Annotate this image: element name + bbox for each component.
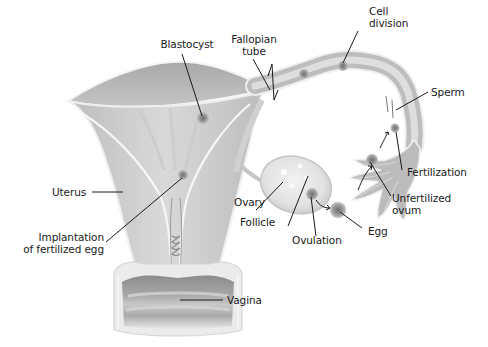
label-implantation-line2: of fertilized egg (8, 243, 104, 255)
label-egg: Egg (368, 225, 388, 237)
label-ovary-text: Ovary (234, 196, 265, 208)
label-cell-division: Cell division (369, 5, 408, 29)
fertilized-egg (391, 124, 400, 133)
reproductive-anatomy-diagram: Blastocyst Fallopian tube Cell division … (0, 0, 488, 347)
label-cell-division-line1: Cell (369, 5, 408, 17)
label-ovary: Ovary (234, 196, 265, 208)
label-implantation-line1: Implantation (8, 231, 104, 243)
dividing-cell-1 (299, 69, 309, 79)
label-blastocyst: Blastocyst (155, 38, 219, 50)
label-follicle-text: Follicle (240, 216, 275, 228)
unfertilized-ovum (366, 154, 378, 166)
vagina (114, 262, 242, 336)
label-follicle: Follicle (240, 216, 275, 228)
label-fallopian-tube: Fallopian tube (223, 33, 285, 57)
label-uterus-text: Uterus (52, 186, 86, 198)
label-sperm-text: Sperm (431, 86, 465, 98)
label-unfertilized-ovum: Unfertilized ovum (392, 192, 451, 216)
label-unfertilized-ovum-line1: Unfertilized (392, 192, 451, 204)
label-egg-text: Egg (368, 225, 388, 237)
label-sperm: Sperm (431, 86, 465, 98)
label-uterus: Uterus (52, 186, 86, 198)
label-blastocyst-text: Blastocyst (155, 38, 219, 50)
label-fallopian-tube-line1: Fallopian (223, 33, 285, 45)
egg (330, 202, 346, 218)
fallopian-tube (255, 60, 415, 146)
implanted-egg (178, 170, 188, 180)
label-vagina-text: Vagina (227, 294, 262, 306)
label-ovulation: Ovulation (292, 234, 342, 246)
label-fallopian-tube-line2: tube (223, 45, 285, 57)
label-cell-division-line2: division (369, 17, 408, 29)
sperm-cells (386, 96, 393, 118)
ovary (253, 147, 339, 223)
blastocyst (197, 112, 209, 124)
follicle (306, 188, 318, 200)
label-fertilization-text: Fertilization (407, 166, 467, 178)
label-fertilization: Fertilization (407, 166, 467, 178)
label-ovulation-text: Ovulation (292, 234, 342, 246)
label-implantation: Implantation of fertilized egg (8, 231, 104, 255)
label-vagina: Vagina (227, 294, 262, 306)
label-unfertilized-ovum-line2: ovum (392, 204, 451, 216)
